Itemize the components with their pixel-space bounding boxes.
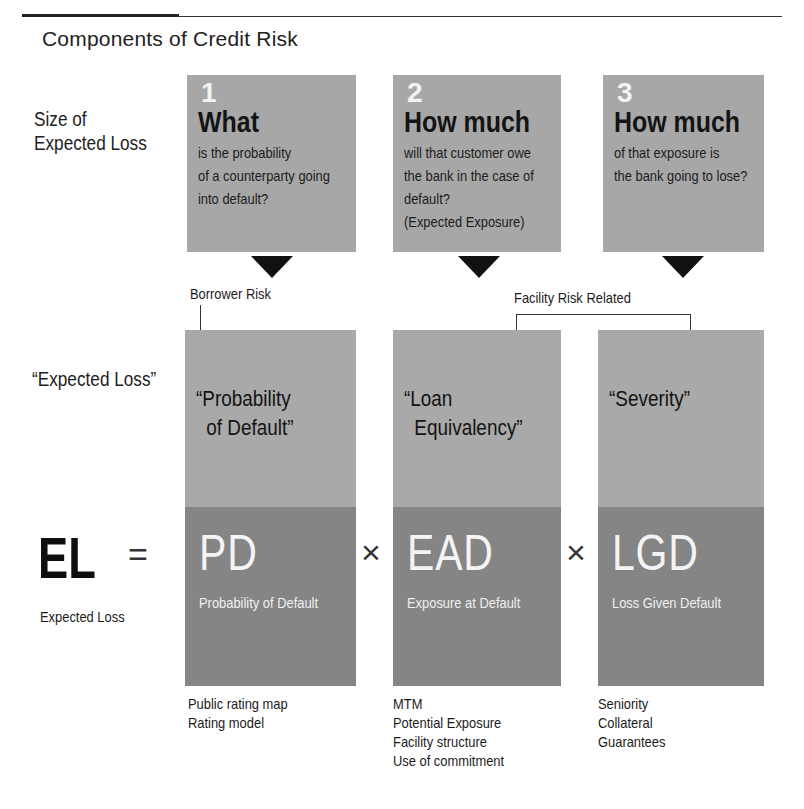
question-line: of that exposure is (614, 141, 747, 164)
step-number: 1 (201, 77, 217, 109)
borrower-risk-label: Borrower Risk (190, 285, 271, 302)
component-box-lgd: “Severity” LGD Loss Given Default (598, 330, 764, 686)
borrower-risk-connector (200, 305, 201, 330)
quote-line: “Loan (404, 384, 523, 413)
question-line: will that customer owe (404, 141, 534, 164)
question-box-how-much-lose: 3 How much of that exposure is the bank … (603, 75, 764, 252)
component-full-name: Probability of Default (199, 594, 318, 611)
question-line: into default? (198, 187, 330, 210)
question-text: is the probability of a counterparty goi… (198, 141, 330, 210)
question-line: default? (404, 187, 534, 210)
list-item: Guarantees (598, 732, 665, 751)
component-box-pd: “Probability of Default” PD Probability … (185, 330, 356, 686)
question-line: the bank going to lose? (614, 164, 747, 187)
multiply-icon: × (361, 533, 381, 572)
list-item: Collateral (598, 713, 665, 732)
question-heading: What (198, 106, 259, 139)
quote-line: “Severity” (609, 384, 690, 413)
formula-lhs-label: Expected Loss (40, 608, 125, 625)
question-box-how-much-owe: 2 How much will that customer owe the ba… (393, 75, 561, 252)
down-arrow-icon (662, 256, 704, 278)
list-item: Seniority (598, 694, 665, 713)
question-text: will that customer owe the bank in the c… (404, 141, 534, 233)
row-label-line: Size of (34, 107, 147, 131)
component-full-name: Exposure at Default (407, 594, 520, 611)
facility-bracket-right (690, 314, 691, 330)
down-arrow-icon (458, 256, 500, 278)
row-label-line: Expected Loss (34, 131, 147, 155)
ead-drivers-list: MTM Potential Exposure Facility structur… (393, 694, 504, 770)
question-text: of that exposure is the bank going to lo… (614, 141, 747, 187)
pd-drivers-list: Public rating map Rating model (188, 694, 288, 732)
component-abbr: EAD (407, 524, 494, 582)
step-number: 2 (407, 77, 423, 109)
header-rule-accent (22, 14, 179, 17)
quote-line: Equivalency” (404, 413, 523, 442)
formula-lhs: EL (38, 528, 96, 588)
list-item: Potential Exposure (393, 713, 504, 732)
row-label-size-of-expected-loss: Size of Expected Loss (34, 107, 147, 155)
question-line: is the probability (198, 141, 330, 164)
question-box-what: 1 What is the probability of a counterpa… (187, 75, 356, 252)
facility-risk-label: Facility Risk Related (514, 289, 631, 306)
component-abbr: LGD (612, 524, 699, 582)
list-item: MTM (393, 694, 504, 713)
quote-line: “Probability (196, 384, 294, 413)
question-heading: How much (404, 106, 530, 139)
question-line: (Expected Exposure) (404, 210, 534, 233)
list-item: Rating model (188, 713, 288, 732)
component-quote: “Severity” (609, 384, 690, 413)
list-item: Facility structure (393, 732, 504, 751)
question-line: the bank in the case of (404, 164, 534, 187)
component-full-name: Loss Given Default (612, 594, 721, 611)
facility-bracket-top (516, 314, 691, 315)
step-number: 3 (617, 77, 633, 109)
list-item: Use of commitment (393, 751, 504, 770)
component-box-ead: “Loan Equivalency” EAD Exposure at Defau… (393, 330, 561, 686)
component-quote: “Loan Equivalency” (404, 384, 523, 442)
down-arrow-icon (251, 256, 293, 278)
page-title: Components of Credit Risk (42, 27, 298, 51)
question-heading: How much (614, 106, 740, 139)
lgd-drivers-list: Seniority Collateral Guarantees (598, 694, 665, 751)
list-item: Public rating map (188, 694, 288, 713)
facility-bracket-left (516, 314, 517, 330)
quote-line: of Default” (196, 413, 294, 442)
component-quote: “Probability of Default” (196, 384, 294, 442)
multiply-icon: × (566, 533, 586, 572)
component-abbr: PD (199, 524, 258, 582)
row-label-expected-loss: “Expected Loss” (32, 367, 156, 391)
question-line: of a counterparty going (198, 164, 330, 187)
equals-sign: = (128, 535, 148, 574)
